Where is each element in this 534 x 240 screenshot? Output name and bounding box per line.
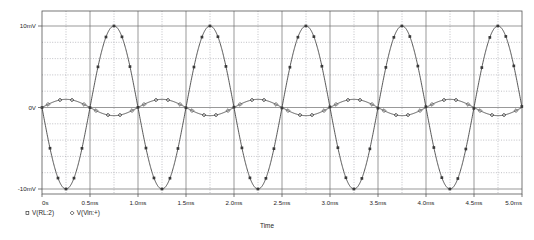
data-point-marker-square xyxy=(73,177,76,180)
data-point-marker-square xyxy=(345,176,348,179)
data-point-marker-square xyxy=(385,66,388,69)
data-point-marker-square xyxy=(121,35,124,38)
data-point-marker-square xyxy=(361,177,364,180)
data-point-marker-square xyxy=(153,177,156,180)
data-point-marker-square xyxy=(289,66,292,69)
data-point-marker-square xyxy=(464,148,467,151)
data-point-marker-square xyxy=(480,66,483,69)
data-point-marker-square xyxy=(225,65,228,68)
legend: V(RL:2)V(Vin:+) xyxy=(26,209,100,217)
x-axis-title: Time xyxy=(260,222,274,229)
data-point-marker-square xyxy=(488,36,491,39)
data-point-marker-square xyxy=(265,177,268,180)
data-point-marker-square xyxy=(145,147,148,150)
x-tick-label: 2.5ms xyxy=(274,199,291,206)
legend-entry-label[interactable]: V(RL:2) xyxy=(32,209,54,217)
x-tick-label: 2.0ms xyxy=(226,199,243,206)
data-point-marker-square xyxy=(313,35,316,38)
legend-symbol-square xyxy=(26,212,29,215)
data-point-marker-square xyxy=(297,36,300,39)
plot-canvas: 0s0.5ms1.0ms1.5ms2.0ms2.5ms3.0ms3.5ms4.0… xyxy=(0,0,534,240)
x-axis-ticks xyxy=(42,194,522,197)
data-point-marker-square xyxy=(273,147,276,150)
data-point-marker-square xyxy=(329,106,332,109)
data-point-marker-square xyxy=(209,25,212,28)
data-point-marker-square xyxy=(369,148,372,151)
waveform-plot-panel: 0s0.5ms1.0ms1.5ms2.0ms2.5ms3.0ms3.5ms4.0… xyxy=(0,0,534,240)
y-axis-ticks xyxy=(38,26,42,189)
data-point-marker-square xyxy=(113,25,116,28)
data-point-marker-square xyxy=(185,106,188,109)
data-point-marker-square xyxy=(440,176,443,179)
legend-symbol-diamond xyxy=(70,211,74,215)
data-point-marker-square xyxy=(432,146,435,149)
data-point-marker-square xyxy=(456,177,459,180)
data-point-marker-square xyxy=(49,147,52,150)
data-point-marker-square xyxy=(281,107,284,110)
data-point-marker-square xyxy=(409,35,412,38)
grid-layer xyxy=(42,11,522,194)
data-point-marker-square xyxy=(321,65,324,68)
x-tick-label: 3.0ms xyxy=(322,199,339,206)
x-tick-label: 4.0ms xyxy=(418,199,435,206)
data-point-marker-square xyxy=(353,188,356,191)
x-tick-label: 5.0ms xyxy=(505,199,522,206)
y-tick-label: 0V xyxy=(28,104,36,111)
data-point-marker-square xyxy=(305,25,308,28)
x-tick-label: 1.5ms xyxy=(178,199,195,206)
data-point-marker-square xyxy=(137,106,140,109)
data-point-marker-square xyxy=(57,177,60,180)
x-axis-tick-labels: 0s0.5ms1.0ms1.5ms2.0ms2.5ms3.0ms3.5ms4.0… xyxy=(42,199,522,206)
data-point-marker-square xyxy=(97,66,100,69)
x-tick-label: 3.5ms xyxy=(370,199,387,206)
data-point-marker-square xyxy=(520,105,523,108)
x-tick-label: 1.0ms xyxy=(130,199,147,206)
data-point-marker-square xyxy=(257,188,260,191)
data-point-marker-square xyxy=(504,35,507,38)
data-point-marker-square xyxy=(417,65,420,68)
data-point-marker-square xyxy=(249,177,252,180)
x-tick-label: 0s xyxy=(42,199,49,206)
y-tick-label: -10mV xyxy=(18,185,37,192)
data-point-marker-square xyxy=(193,66,196,69)
data-point-marker-square xyxy=(241,147,244,150)
data-point-marker-square xyxy=(425,105,428,108)
data-point-marker-square xyxy=(472,107,475,110)
data-point-marker-square xyxy=(233,106,236,109)
data-point-marker-square xyxy=(169,177,172,180)
data-point-marker-square xyxy=(337,146,340,149)
data-point-marker-square xyxy=(129,65,132,68)
data-point-marker-square xyxy=(177,147,180,150)
data-point-marker-square xyxy=(217,35,220,38)
data-point-marker-square xyxy=(65,188,68,191)
x-tick-label: 4.5ms xyxy=(466,199,483,206)
data-point-marker-square xyxy=(496,25,499,28)
data-point-marker-square xyxy=(81,147,84,150)
data-point-marker-square xyxy=(201,36,204,39)
data-point-marker-square xyxy=(161,188,164,191)
legend-entry-label[interactable]: V(Vin:+) xyxy=(77,209,100,217)
data-point-marker-square xyxy=(105,36,108,39)
x-tick-label: 0.5ms xyxy=(82,199,99,206)
data-point-marker-square xyxy=(377,107,380,110)
data-point-marker-square xyxy=(448,188,451,191)
y-axis-tick-labels: 10mV0V-10mV xyxy=(18,22,37,192)
y-tick-label: 10mV xyxy=(20,22,37,29)
data-point-marker-square xyxy=(512,65,515,68)
data-point-marker-square xyxy=(401,25,404,28)
data-point-marker-square xyxy=(393,36,396,39)
data-point-marker-square xyxy=(89,106,92,109)
